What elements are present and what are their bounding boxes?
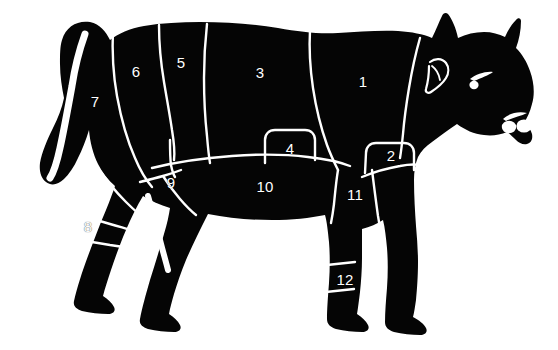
cut-label-5[interactable]: 5: [177, 55, 186, 70]
cut-label-10[interactable]: 10: [256, 179, 273, 194]
cut-label-11[interactable]: 11: [347, 187, 363, 202]
cut-label-9[interactable]: 9: [167, 175, 176, 190]
cut-label-8[interactable]: 8: [84, 219, 93, 234]
cut-label-7[interactable]: 7: [91, 94, 100, 109]
cut-label-6[interactable]: 6: [132, 64, 141, 79]
cut-label-3[interactable]: 3: [256, 65, 265, 80]
cut-label-12[interactable]: 12: [336, 272, 353, 287]
cut-label-2[interactable]: 2: [387, 148, 396, 163]
cow-silhouette-svg: [0, 0, 558, 350]
cut-label-1[interactable]: 1: [359, 74, 368, 89]
cut-label-4[interactable]: 4: [286, 141, 295, 156]
beef-cuts-chart: 1 2 3 4 5 6 7 8 9 10 11 12: [0, 0, 558, 350]
